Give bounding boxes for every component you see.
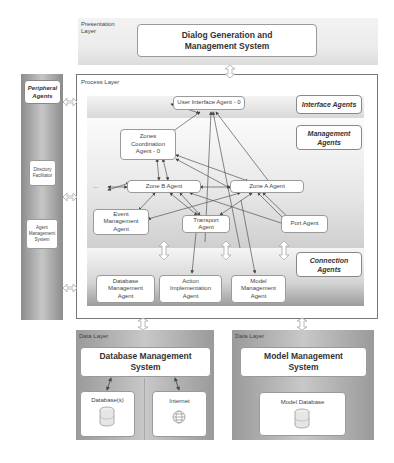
process-layer-label: Process Layer [81, 79, 119, 86]
data-layer-label: Data Layer [235, 333, 264, 340]
zone-a-agent: Zone A Agent [230, 180, 304, 193]
port-agent: Port Agent [281, 215, 328, 233]
databases-label: Database(s) [91, 397, 124, 405]
database-icon [293, 408, 311, 430]
model-database-label: Model Database [281, 399, 325, 407]
database-management-system-box: Database Management System [80, 347, 211, 377]
globe-icon [171, 409, 187, 425]
database-management-agent: Database Management Agent [96, 275, 155, 303]
connection-agents-label: Connection Agents [296, 252, 362, 277]
transport-agent: Transport Agent [182, 215, 230, 233]
divider [144, 378, 145, 440]
data-layer-label: Data Layer [79, 333, 108, 340]
dialog-generation-system-box: Dialog Generation and Management System [137, 24, 317, 57]
zones-coordination-agent: Zones Coordination Agent - 0 [120, 129, 176, 160]
user-interface-agent: User Interface Agent - 0 [173, 96, 245, 110]
zone-b-agent: Zone B Agent [127, 180, 201, 193]
peripheral-agents-panel [21, 74, 63, 320]
model-management-system-box: Model Management System [240, 347, 367, 377]
model-management-agent: Model Management Agent [231, 275, 286, 303]
management-agents-label: Management Agents [296, 125, 362, 150]
internet-label: Internet [169, 398, 189, 406]
interface-agents-label: Interface Agents [296, 95, 362, 114]
peripheral-agents-title: Peripheral Agents [24, 80, 61, 104]
action-implementation-agent: Action Implementation Agent [159, 275, 222, 303]
event-management-agent: Event Management Agent [93, 209, 149, 235]
presentation-layer-label: Presentation Layer [81, 21, 131, 35]
more-zones-ellipsis: ... [93, 183, 98, 189]
agent-management-system-box: Agent Management System [26, 219, 58, 249]
directory-facilitator-box: Directory Facilitator [29, 160, 56, 186]
database-icon [98, 406, 116, 428]
